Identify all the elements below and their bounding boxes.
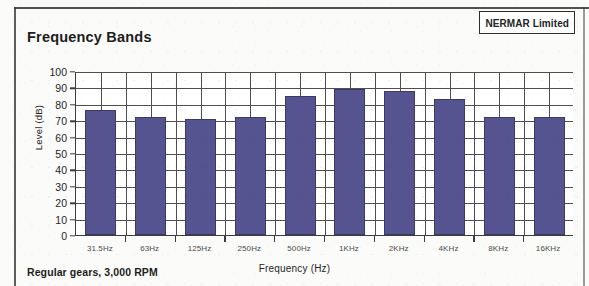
- y-axis-tick-label: 20: [41, 197, 67, 209]
- x-axis-tick-label: 2KHz: [389, 244, 409, 253]
- y-axis-tick-label: 0: [41, 230, 67, 242]
- x-axis-tick-label: 63Hz: [140, 244, 159, 253]
- x-axis-tick-label: 4KHz: [439, 244, 459, 253]
- x-axis-tick-mark: [175, 236, 176, 242]
- y-axis-tick-label: 80: [41, 99, 67, 111]
- bar: [484, 117, 515, 235]
- y-axis-tick-label: 70: [41, 115, 67, 127]
- bar: [85, 110, 116, 235]
- bar: [135, 117, 166, 235]
- y-axis-tick-label: 50: [41, 148, 67, 160]
- x-axis-tick-label: 8KHz: [488, 244, 508, 253]
- gridline-vertical: [425, 72, 426, 235]
- x-axis-tick-label: 125Hz: [188, 244, 212, 253]
- gridline-vertical: [375, 72, 376, 235]
- y-axis-tick-label: 40: [41, 164, 67, 176]
- x-axis-tick-label: 16KHz: [536, 244, 561, 253]
- gridline-vertical: [176, 72, 177, 235]
- bar: [434, 99, 465, 235]
- plot-area: [75, 72, 573, 236]
- gridline-vertical: [524, 72, 525, 235]
- x-axis-tick-label: 500Hz: [287, 244, 311, 253]
- gridline-vertical: [275, 72, 276, 235]
- bar-chart: 1009080706050403020100 Level (dB) Freque…: [0, 0, 589, 286]
- x-axis-tick-mark: [274, 236, 275, 242]
- x-axis-tick-label: 1KHz: [339, 244, 359, 253]
- x-axis-tick-label: 250Hz: [237, 244, 261, 253]
- y-axis-tick-label: 30: [41, 181, 67, 193]
- y-axis-tick-label: 10: [41, 214, 67, 226]
- x-axis-tick-mark: [374, 236, 375, 242]
- bar: [285, 96, 316, 235]
- bar: [334, 89, 365, 235]
- gridline-vertical: [126, 72, 127, 235]
- x-axis-tick-mark: [125, 236, 126, 242]
- x-axis-tick-label: 31.5Hz: [87, 244, 113, 253]
- chart-caption: Regular gears, 3,000 RPM: [27, 266, 158, 278]
- bar: [185, 119, 216, 235]
- gridline-vertical: [225, 72, 226, 235]
- x-axis-tick-mark: [523, 236, 524, 242]
- gridline-vertical: [325, 72, 326, 235]
- x-axis-tick-mark: [473, 236, 474, 242]
- y-axis-ticks: 1009080706050403020100: [40, 72, 75, 235]
- x-axis-tick-mark: [224, 236, 225, 242]
- bar: [534, 117, 565, 235]
- gridline-vertical: [474, 72, 475, 235]
- y-axis-tick-label: 100: [41, 66, 67, 78]
- y-axis-tick-label: 90: [41, 82, 67, 94]
- x-axis-tick-mark: [424, 236, 425, 242]
- bar: [384, 91, 415, 235]
- scanned-page: Frequency Bands NERMAR Limited 100908070…: [0, 0, 589, 286]
- y-axis-title: Level (dB): [33, 88, 44, 168]
- bar: [235, 117, 266, 235]
- y-axis-tick-label: 60: [41, 132, 67, 144]
- x-axis-tick-mark: [324, 236, 325, 242]
